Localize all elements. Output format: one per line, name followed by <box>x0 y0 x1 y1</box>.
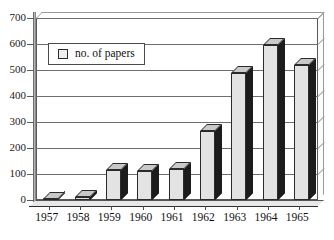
x-axis-tick <box>268 206 269 210</box>
y-axis-tick-label: 500 <box>0 64 26 75</box>
x-axis-tick <box>143 206 144 210</box>
bar-front-face <box>169 169 184 200</box>
gridline <box>36 18 318 19</box>
y-axis-tick-label: 400 <box>0 90 26 101</box>
bar-1963 <box>231 73 246 200</box>
bar-side-face <box>278 38 285 200</box>
y-axis-tick <box>27 44 34 45</box>
y-axis-tick-label: 0 <box>0 194 26 205</box>
x-axis-tick-label: 1965 <box>277 212 317 224</box>
bar-1962 <box>200 131 215 200</box>
y-axis-tick <box>27 70 34 71</box>
x-axis-tick <box>205 206 206 210</box>
bar-front-face <box>263 45 278 200</box>
bar-front-face <box>294 65 309 200</box>
y-axis-tick <box>27 148 34 149</box>
y-axis-tick <box>27 122 34 123</box>
bar-1959 <box>106 170 121 200</box>
bar-1965 <box>294 65 309 200</box>
x-axis-tick <box>111 206 112 210</box>
legend-swatch-no-of-papers <box>58 49 68 59</box>
y-axis-tick-label: 200 <box>0 142 26 153</box>
x-axis-tick <box>237 206 238 210</box>
bar-front-face <box>231 73 246 200</box>
y-axis-tick-label: 100 <box>0 168 26 179</box>
bar-front-face <box>137 171 152 200</box>
x-axis-tick <box>174 206 175 210</box>
bar-side-face <box>246 66 253 200</box>
bar-front-face <box>106 170 121 200</box>
x-axis-tick <box>49 206 50 210</box>
y-axis-tick <box>27 96 34 97</box>
bar-front-face <box>200 131 215 200</box>
y-axis-tick <box>27 18 34 19</box>
bar-1960 <box>137 171 152 200</box>
legend: no. of papers <box>48 43 145 65</box>
bar-chart: 0100200300400500600700 19571958195919601… <box>0 0 334 240</box>
y-axis-tick <box>27 174 34 175</box>
bar-1964 <box>263 45 278 200</box>
y-axis-tick-label: 300 <box>0 116 26 127</box>
legend-label-no-of-papers: no. of papers <box>75 48 135 60</box>
x-axis-tick <box>299 206 300 210</box>
x-axis-tick <box>80 206 81 210</box>
y-axis-tick-label: 700 <box>0 12 26 23</box>
y-axis-tick-label: 600 <box>0 38 26 49</box>
y-axis-tick <box>27 200 34 201</box>
bar-side-face <box>215 124 222 200</box>
bar-1961 <box>169 169 184 200</box>
bar-side-face <box>309 58 316 200</box>
